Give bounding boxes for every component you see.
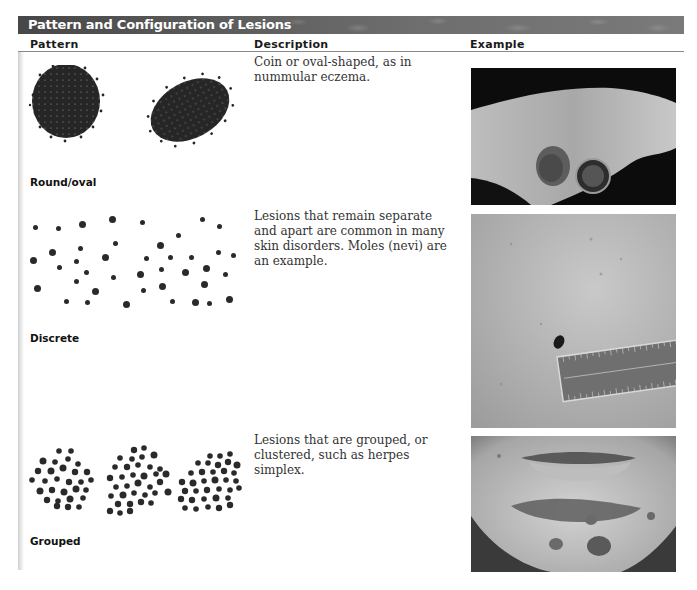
example-photo-discrete bbox=[471, 214, 676, 428]
left-margin-strip bbox=[18, 52, 24, 570]
nummular-eczema-photo-image bbox=[471, 68, 676, 205]
round-lesion-shape bbox=[29, 65, 105, 142]
round-oval-pattern-illustration bbox=[25, 65, 245, 160]
oval-lesion-shape bbox=[134, 65, 245, 160]
pattern-label-round-oval: Round/oval bbox=[30, 176, 96, 188]
column-header-pattern: Pattern bbox=[30, 38, 79, 51]
pattern-label-discrete: Discrete bbox=[30, 332, 79, 344]
grouped-cluster-3 bbox=[178, 451, 242, 512]
column-header-description: Description bbox=[254, 38, 328, 51]
mole-with-ruler-photo-image bbox=[471, 214, 676, 428]
description-discrete: Lesions that remain separate and apart a… bbox=[254, 209, 454, 269]
description-grouped: Lesions that are grouped, or clustered, … bbox=[254, 433, 454, 478]
example-photo-round-oval bbox=[471, 68, 676, 205]
herpes-simplex-photo-image bbox=[471, 436, 676, 572]
header-divider bbox=[18, 51, 684, 52]
table-title-bar: Pattern and Configuration of Lesions bbox=[18, 16, 684, 34]
table-title: Pattern and Configuration of Lesions bbox=[28, 17, 291, 32]
grouped-pattern-illustration bbox=[25, 443, 245, 518]
grouped-cluster-1 bbox=[29, 448, 94, 510]
example-photo-grouped bbox=[471, 436, 676, 572]
column-header-example: Example bbox=[470, 38, 525, 51]
pattern-label-grouped: Grouped bbox=[30, 535, 81, 547]
description-round-oval: Coin or oval-shaped, as in nummular ecze… bbox=[254, 55, 454, 85]
grouped-cluster-2 bbox=[107, 445, 172, 516]
